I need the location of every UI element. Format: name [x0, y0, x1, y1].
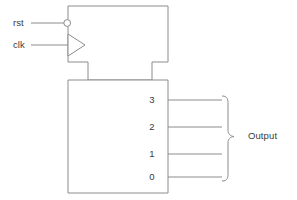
- rst-input-label: rst: [13, 17, 24, 28]
- control-block-outline: [68, 6, 168, 80]
- output-pin-label-3: 3: [146, 94, 158, 105]
- output-group-label: Output: [248, 130, 277, 141]
- output-pin-label-1: 1: [146, 148, 158, 159]
- output-brace-icon: [222, 96, 234, 181]
- output-pin-label-0: 0: [146, 171, 158, 182]
- rst-inversion-bubble-icon: [64, 20, 71, 27]
- output-pin-label-2: 2: [146, 121, 158, 132]
- clk-input-label: clk: [13, 39, 25, 50]
- diagram-canvas: rst clk 3 2 1 0 Output: [0, 0, 297, 200]
